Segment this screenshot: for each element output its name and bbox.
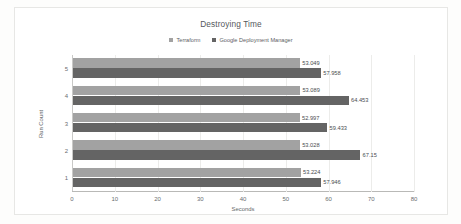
bar-google-deployment-manager[interactable]: 57.958 bbox=[73, 68, 321, 77]
chart-title: Destroying Time bbox=[15, 19, 447, 29]
x-axis-tick-label: 80 bbox=[411, 196, 418, 202]
bar-data-label: 67.15 bbox=[363, 152, 377, 158]
x-axis-tick-label: 0 bbox=[70, 196, 73, 202]
bar-data-label: 53.049 bbox=[302, 60, 319, 66]
y-axis-tick-label: 3 bbox=[65, 121, 68, 127]
y-axis-tick-label: 5 bbox=[65, 66, 68, 72]
legend-item-terraform[interactable]: Terraform bbox=[169, 37, 200, 43]
legend-swatch-terraform bbox=[169, 38, 173, 42]
bar-group: 352.99759.433 bbox=[73, 110, 414, 137]
x-axis-tick-label: 70 bbox=[368, 196, 375, 202]
y-axis-tick-label: 2 bbox=[65, 148, 68, 154]
legend-label-google-deployment-manager: Google Deployment Manager bbox=[219, 37, 292, 43]
legend-label-terraform: Terraform bbox=[176, 37, 200, 43]
bar-terraform[interactable]: 53.028 bbox=[73, 140, 300, 149]
bar-data-label: 57.958 bbox=[323, 70, 340, 76]
bar-terraform[interactable]: 53.224 bbox=[73, 168, 301, 177]
bar-terraform[interactable]: 53.049 bbox=[73, 58, 300, 67]
bar-data-label: 53.224 bbox=[303, 169, 320, 175]
bar-google-deployment-manager[interactable]: 67.15 bbox=[73, 150, 360, 159]
chart-legend: Terraform Google Deployment Manager bbox=[15, 37, 447, 43]
bar-group: 153.22457.946 bbox=[73, 165, 414, 192]
gridline bbox=[414, 55, 415, 192]
bar-data-label: 53.028 bbox=[302, 142, 319, 148]
y-axis-title: Run Count bbox=[38, 110, 44, 138]
x-axis-tick-label: 20 bbox=[154, 196, 161, 202]
plot-area: 153.22457.946253.02867.15352.99759.43345… bbox=[72, 55, 414, 192]
bar-data-label: 64.453 bbox=[351, 97, 368, 103]
legend-item-google-deployment-manager[interactable]: Google Deployment Manager bbox=[212, 37, 292, 43]
bar-data-label: 53.089 bbox=[302, 87, 319, 93]
chart-container: Destroying Time Terraform Google Deploym… bbox=[14, 7, 448, 215]
x-axis-tick-label: 50 bbox=[282, 196, 289, 202]
x-axis-tick-label: 60 bbox=[325, 196, 332, 202]
bar-group: 553.04957.958 bbox=[73, 55, 414, 82]
bar-group: 453.08964.453 bbox=[73, 82, 414, 109]
y-axis-tick-label: 1 bbox=[65, 175, 68, 181]
bar-terraform[interactable]: 53.089 bbox=[73, 86, 300, 95]
bar-data-label: 59.433 bbox=[330, 125, 347, 131]
bar-google-deployment-manager[interactable]: 59.433 bbox=[73, 123, 327, 132]
x-axis-tick-label: 30 bbox=[197, 196, 204, 202]
bar-data-label: 52.997 bbox=[302, 115, 319, 121]
x-axis-tick-label: 10 bbox=[111, 196, 118, 202]
bar-google-deployment-manager[interactable]: 57.946 bbox=[73, 178, 321, 187]
bar-google-deployment-manager[interactable]: 64.453 bbox=[73, 96, 349, 105]
bar-terraform[interactable]: 52.997 bbox=[73, 113, 300, 122]
bar-group: 253.02867.15 bbox=[73, 137, 414, 164]
x-axis-title: Seconds bbox=[72, 206, 414, 212]
legend-swatch-google-deployment-manager bbox=[212, 38, 216, 42]
x-axis-tick-label: 40 bbox=[240, 196, 247, 202]
y-axis-tick-label: 4 bbox=[65, 93, 68, 99]
bar-data-label: 57.946 bbox=[323, 179, 340, 185]
